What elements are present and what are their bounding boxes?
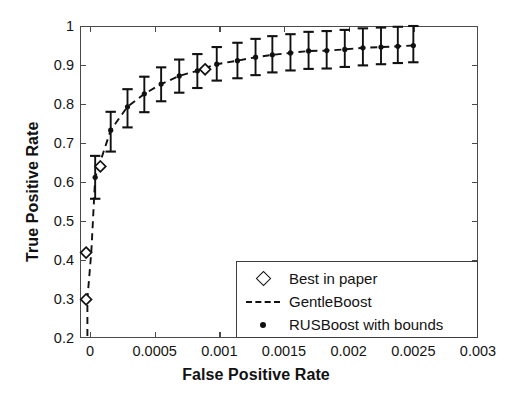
y-axis-title: True Positive Rate bbox=[24, 121, 42, 262]
rusboost-data-point bbox=[142, 91, 147, 96]
legend-item-rusboost: RUSBoost with bounds bbox=[237, 313, 477, 336]
rusboost-data-point bbox=[214, 62, 219, 67]
data-series-layer bbox=[0, 0, 512, 404]
rusboost-data-point bbox=[378, 44, 383, 49]
rusboost-data-point bbox=[411, 43, 416, 48]
rusboost-data-point bbox=[159, 82, 164, 87]
best-in-paper-data-point bbox=[200, 64, 211, 75]
rusboost-data-point bbox=[235, 58, 240, 63]
x-axis-title: False Positive Rate bbox=[0, 366, 512, 384]
rusboost-data-point bbox=[125, 104, 130, 109]
best-in-paper-data-point bbox=[81, 247, 92, 258]
rusboost-data-point bbox=[288, 50, 293, 55]
dot-marker-icon bbox=[237, 322, 289, 328]
legend-item-best-in-paper: Best in paper bbox=[237, 267, 477, 290]
legend-label-gentleboost: GentleBoost bbox=[289, 293, 372, 310]
roc-curve-figure: 00.00050.0010.00150.0020.00250.003 0.20.… bbox=[0, 0, 512, 404]
diamond-marker-icon bbox=[237, 273, 289, 284]
rusboost-data-point bbox=[177, 73, 182, 78]
rusboost-data-point bbox=[270, 52, 275, 57]
rusboost-data-point bbox=[306, 48, 311, 53]
rusboost-data-point bbox=[253, 55, 258, 60]
best-in-paper-data-point bbox=[95, 161, 106, 172]
best-in-paper-data-point bbox=[81, 294, 92, 305]
rusboost-data-point bbox=[395, 44, 400, 49]
rusboost-data-point bbox=[108, 128, 113, 133]
legend-label-best-in-paper: Best in paper bbox=[289, 270, 377, 287]
rusboost-data-point bbox=[360, 45, 365, 50]
legend-box: Best in paper GentleBoost RUSBoost with … bbox=[236, 261, 478, 338]
rusboost-data-point bbox=[324, 48, 329, 53]
legend-label-rusboost: RUSBoost with bounds bbox=[289, 316, 443, 333]
dashed-line-icon bbox=[237, 301, 289, 303]
legend-item-gentleboost: GentleBoost bbox=[237, 290, 477, 313]
rusboost-data-point bbox=[93, 175, 98, 180]
rusboost-data-point bbox=[342, 47, 347, 52]
